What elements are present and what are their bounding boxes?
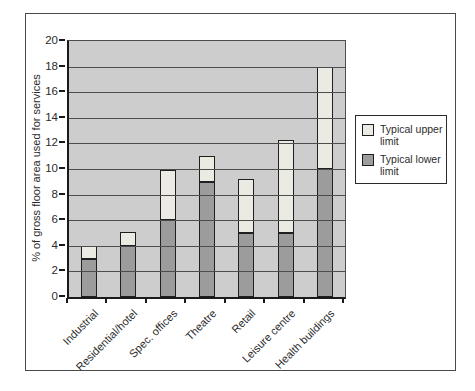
gridline bbox=[69, 195, 345, 196]
bar-segment-upper-limit bbox=[238, 179, 254, 233]
legend-item-lower-limit: Typical lower limit bbox=[362, 153, 443, 177]
y-axis-title: % of gross floor area used for services bbox=[30, 74, 42, 262]
bar-segment-lower-limit bbox=[278, 233, 294, 297]
gridline bbox=[69, 92, 345, 93]
legend-swatch-lower-limit-icon bbox=[362, 154, 374, 166]
legend: Typical upper limit Typical lower limit bbox=[355, 115, 447, 184]
page: 02468101214161820IndustrialResidential/h… bbox=[0, 0, 475, 391]
gridline bbox=[69, 67, 345, 68]
bar-leisure-centre bbox=[278, 140, 294, 297]
bar-segment-lower-limit bbox=[317, 169, 333, 297]
gridline bbox=[69, 169, 345, 170]
legend-label-upper-limit: Typical upper limit bbox=[380, 123, 443, 147]
bar-segment-upper-limit bbox=[120, 232, 136, 246]
gridline bbox=[69, 271, 345, 272]
gridline bbox=[69, 220, 345, 221]
plot-area bbox=[67, 40, 346, 299]
bar-spec-offices bbox=[160, 170, 176, 297]
gridline bbox=[69, 118, 345, 119]
bar-segment-lower-limit bbox=[160, 220, 176, 297]
legend-label-lower-limit: Typical lower limit bbox=[380, 153, 443, 177]
bar-health-buildings bbox=[317, 67, 333, 297]
bar-segment-lower-limit bbox=[238, 233, 254, 297]
gridline bbox=[69, 246, 345, 247]
bar-segment-upper-limit bbox=[81, 246, 97, 259]
legend-item-upper-limit: Typical upper limit bbox=[362, 123, 443, 147]
bar-retail bbox=[238, 179, 254, 297]
legend-swatch-upper-limit-icon bbox=[362, 124, 374, 136]
bar-residential-hotel bbox=[120, 232, 136, 297]
bar-segment-lower-limit bbox=[81, 259, 97, 297]
gridline bbox=[69, 143, 345, 144]
bar-theatre bbox=[199, 156, 215, 297]
bar-segment-lower-limit bbox=[199, 182, 215, 297]
